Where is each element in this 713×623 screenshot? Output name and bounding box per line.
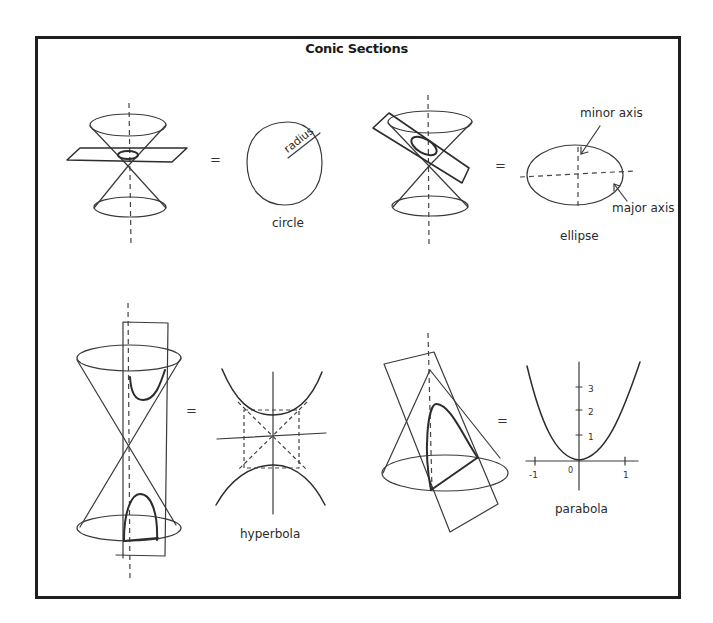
conic-sections-drawing: radius: [0, 0, 713, 623]
equals-label-parabola: =: [497, 413, 508, 428]
cone-horizontal-plane-illustration: [67, 103, 187, 245]
major-axis-label: major axis: [612, 201, 675, 215]
x-tick-label-0: 0: [568, 466, 573, 475]
x-tick-label-1: 1: [623, 470, 629, 480]
ellipse-label: ellipse: [560, 229, 599, 243]
parabola-illustration: 1 2 3 -1 0 1: [526, 362, 640, 490]
hyperbola-label: hyperbola: [240, 527, 300, 541]
minor-axis-label: minor axis: [580, 106, 643, 120]
circle-illustration: radius: [247, 122, 322, 205]
ellipse-illustration: [520, 126, 634, 210]
double-cone-vertical-plane-illustration: [77, 303, 181, 580]
equals-label-ellipse: =: [495, 158, 506, 173]
x-tick-label-neg1: -1: [529, 470, 538, 480]
hyperbola-illustration: [216, 369, 326, 514]
parabola-label: parabola: [555, 502, 608, 516]
y-tick-label-3: 3: [588, 384, 594, 394]
cone-parallel-plane-illustration: [382, 333, 508, 532]
equals-label-hyperbola: =: [186, 403, 197, 418]
equals-label-circle: =: [210, 152, 221, 167]
y-tick-label-1: 1: [588, 432, 594, 442]
circle-label: circle: [272, 216, 304, 230]
y-tick-label-2: 2: [588, 407, 594, 417]
cone-tilted-plane-illustration: [373, 95, 472, 245]
